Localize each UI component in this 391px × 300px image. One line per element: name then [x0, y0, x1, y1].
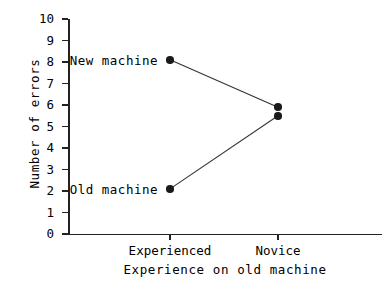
interaction-plot-figure: 012345678910 ExperiencedNovice Number of…	[0, 0, 391, 300]
series-line	[170, 60, 278, 107]
series-line	[170, 116, 278, 189]
series-lines	[0, 0, 391, 300]
